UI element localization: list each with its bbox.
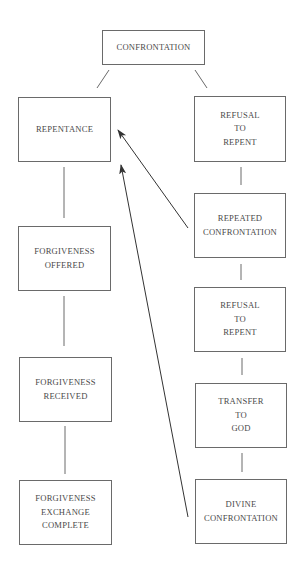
- node-label-line: REFUSAL: [220, 109, 260, 123]
- arrow-repeated-confrontation-to-repentance: [118, 130, 188, 228]
- node-repentance: REPENTANCE: [18, 97, 111, 162]
- node-label-line: RECEIVED: [43, 390, 87, 404]
- node-label-line: TRANSFER: [218, 395, 264, 409]
- node-divine-confrontation: DIVINECONFRONTATION: [195, 479, 287, 544]
- node-label: FORGIVENESSRECEIVED: [35, 376, 95, 403]
- node-label-line: CONFRONTATION: [203, 226, 277, 240]
- node-label: CONFRONTATION: [116, 41, 190, 55]
- node-forgiveness-exchange-complete: FORGIVENESSEXCHANGECOMPLETE: [19, 480, 112, 545]
- node-label: REPENTANCE: [36, 123, 93, 137]
- node-label-line: FORGIVENESS: [35, 492, 95, 506]
- node-label-line: TO: [234, 122, 246, 136]
- node-label-line: TO: [234, 313, 246, 327]
- connector-confrontation-to-repentance: [97, 70, 109, 88]
- node-label-line: CONFRONTATION: [116, 41, 190, 55]
- node-refusal-to-repent-1: REFUSALTOREPENT: [194, 96, 286, 162]
- node-label: TRANSFERTOGOD: [218, 395, 264, 436]
- node-label-line: REPENT: [223, 326, 257, 340]
- node-forgiveness-received: FORGIVENESSRECEIVED: [19, 357, 112, 422]
- node-label-line: TO: [235, 409, 247, 423]
- node-label-line: DIVINE: [226, 498, 257, 512]
- node-label-line: CONFRONTATION: [204, 512, 278, 526]
- node-label: REFUSALTOREPENT: [220, 109, 260, 150]
- node-confrontation: CONFRONTATION: [102, 30, 205, 65]
- node-forgiveness-offered: FORGIVENESSOFFERED: [18, 226, 111, 291]
- node-label: FORGIVENESSOFFERED: [34, 245, 94, 272]
- node-label-line: COMPLETE: [42, 519, 89, 533]
- node-label-line: OFFERED: [45, 259, 85, 273]
- node-label: REPEATEDCONFRONTATION: [203, 212, 277, 239]
- node-label-line: REPEATED: [218, 212, 263, 226]
- node-label-line: GOD: [231, 422, 250, 436]
- node-label: REFUSALTOREPENT: [220, 299, 260, 340]
- arrow-divine-confrontation-to-repentance: [121, 165, 188, 517]
- connector-confrontation-to-refusal-to-repent-1: [195, 70, 207, 88]
- node-label-line: REFUSAL: [220, 299, 260, 313]
- node-refusal-to-repent-2: REFUSALTOREPENT: [194, 287, 286, 352]
- node-label-line: FORGIVENESS: [35, 376, 95, 390]
- node-label-line: REPENT: [223, 136, 257, 150]
- node-repeated-confrontation: REPEATEDCONFRONTATION: [194, 193, 286, 258]
- node-transfer-to-god: TRANSFERTOGOD: [195, 383, 287, 448]
- node-label-line: REPENTANCE: [36, 123, 93, 137]
- node-label: FORGIVENESSEXCHANGECOMPLETE: [35, 492, 95, 533]
- node-label-line: EXCHANGE: [41, 506, 90, 520]
- flowchart-canvas: CONFRONTATIONREPENTANCEREFUSALTOREPENTRE…: [0, 0, 305, 573]
- node-label-line: FORGIVENESS: [34, 245, 94, 259]
- node-label: DIVINECONFRONTATION: [204, 498, 278, 525]
